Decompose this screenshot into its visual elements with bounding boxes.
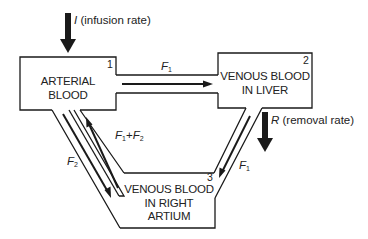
compartment-3-line2: IN RIGHT [120, 197, 218, 211]
compartment-2-label: VENOUS BLOOD IN LIVER [216, 70, 314, 97]
channel-liver-to-atrium [214, 108, 262, 198]
compartment-3-line1: VENOUS BLOOD [120, 183, 218, 197]
removal-text: (removal rate) [279, 114, 354, 126]
infusion-rate-label: I (infusion rate) [74, 14, 151, 27]
flow-symbol: F [239, 159, 246, 171]
flow-symbol: F [161, 60, 168, 72]
compartment-1-label: ARTERIAL BLOOD [20, 75, 116, 102]
flow-symbol-1: F [115, 129, 122, 141]
removal-arrow-head [257, 138, 273, 152]
removal-rate-label: R (removal rate) [271, 114, 354, 127]
compartment-3-label: VENOUS BLOOD IN RIGHT ARTIUM [120, 183, 218, 224]
flow-subscript: 2 [74, 161, 78, 168]
flow-symbol: F [67, 155, 74, 167]
flow-symbol-2: F [133, 129, 140, 141]
removal-arrow-shaft [262, 112, 268, 139]
arrow-f1-arterial-to-liver-head [203, 81, 213, 88]
compartment-2-line1: VENOUS BLOOD [216, 70, 314, 84]
channel-arterial-atrium-outer [52, 110, 124, 228]
plus-sign: + [126, 129, 133, 141]
arrow-f1f2-atrium-to-arterial-line [89, 124, 118, 188]
compartment-1-line1: ARTERIAL [20, 75, 116, 89]
flow-subscript: 1 [246, 165, 250, 172]
infusion-text: (infusion rate) [77, 14, 151, 26]
flow-subscript: 1 [168, 66, 172, 73]
infusion-arrow-shaft [65, 13, 71, 40]
compartment-2-line2: IN LIVER [216, 84, 314, 98]
compartment-1-line2: BLOOD [20, 89, 116, 103]
flow-subscript-2: 2 [140, 135, 144, 142]
infusion-arrow-head [60, 39, 76, 53]
flow-f1-arterial-to-liver-label: F1 [161, 60, 172, 76]
pharmacokinetic-compartment-diagram: I (infusion rate) R (removal rate) 1 ART… [0, 0, 368, 239]
compartment-2-number: 2 [303, 54, 309, 67]
flow-f1-liver-to-atrium-label: F1 [239, 159, 250, 175]
compartment-3-line3: ARTIUM [120, 210, 218, 224]
flow-f1-plus-f2-label: F1+F2 [115, 129, 144, 145]
flow-f2-arterial-to-atrium-label: F2 [67, 155, 78, 171]
compartment-1-number: 1 [107, 58, 113, 71]
